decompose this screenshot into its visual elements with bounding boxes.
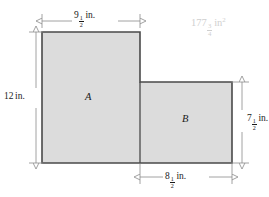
dimension-label-left-height: 12in. bbox=[4, 92, 25, 102]
left-height-unit: in. bbox=[15, 91, 25, 101]
dimension-label-top-width: 912in. bbox=[74, 11, 95, 28]
composite-figure-diagram: 912in. 12in. 712in. 812in. A B 17734in2 bbox=[0, 0, 269, 197]
answer-area-label: 17734in2 bbox=[191, 18, 226, 38]
answer-whole: 177 bbox=[191, 17, 207, 28]
region-label-a: A bbox=[85, 92, 91, 103]
right-height-denominator: 2 bbox=[252, 124, 256, 131]
answer-denominator: 4 bbox=[207, 30, 212, 38]
top-width-fraction: 12 bbox=[79, 15, 83, 28]
bottom-width-unit: in. bbox=[176, 171, 186, 181]
right-height-unit: in. bbox=[258, 113, 268, 123]
bottom-width-whole: 8 bbox=[165, 171, 170, 181]
right-height-fraction: 12 bbox=[252, 118, 256, 131]
dimension-label-right-height: 712in. bbox=[247, 114, 268, 131]
figure-svg bbox=[0, 0, 269, 197]
top-width-whole: 9 bbox=[74, 10, 79, 20]
region-label-b: B bbox=[182, 114, 188, 125]
right-height-whole: 7 bbox=[247, 113, 252, 123]
answer-numerator: 3 bbox=[207, 23, 212, 30]
dimension-label-bottom-width: 812in. bbox=[165, 172, 186, 189]
left-height-whole: 12 bbox=[4, 91, 14, 101]
bottom-width-denominator: 2 bbox=[170, 182, 174, 189]
bottom-width-fraction: 12 bbox=[170, 176, 174, 189]
top-width-denominator: 2 bbox=[79, 21, 83, 28]
composite-shape bbox=[42, 32, 232, 163]
top-width-unit: in. bbox=[85, 10, 95, 20]
dimension-left-height bbox=[29, 32, 43, 163]
answer-exponent: 2 bbox=[222, 16, 225, 23]
answer-fraction: 34 bbox=[207, 23, 212, 38]
